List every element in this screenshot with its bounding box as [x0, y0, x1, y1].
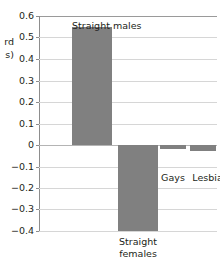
axis-tick	[36, 188, 39, 189]
bar-straight-females	[118, 145, 158, 231]
y-tick-label: −0.3	[11, 204, 34, 214]
y-tick-label: −0.4	[11, 226, 34, 236]
plot-top-border	[39, 16, 217, 17]
axis-tick	[36, 124, 39, 125]
y-tick-label: 0.4	[19, 54, 34, 64]
y-tick-label: 0.6	[19, 11, 34, 21]
axis-tick	[36, 37, 39, 38]
bar-lesbians	[190, 145, 216, 151]
axis-tick	[36, 81, 39, 82]
axis-tick	[36, 231, 39, 232]
bar-annotation-straight-females: Straight females	[98, 236, 178, 259]
bar-straight-males	[72, 27, 112, 145]
bar-annotation-straight-males: Straight males	[72, 20, 192, 32]
gridline	[39, 124, 217, 125]
plot-area: Straight malesStraight femalesGaysLesbia…	[39, 16, 217, 231]
bar-annotation-lesbians: Lesbians	[185, 172, 220, 184]
bar-chart: rd s) 0.60.50.40.30.20.10−0.1−0.2−0.3−0.…	[0, 0, 220, 269]
axis-tick	[36, 209, 39, 210]
y-axis-tick-labels: 0.60.50.40.30.20.10−0.1−0.2−0.3−0.4	[0, 0, 38, 269]
gridline	[39, 81, 217, 82]
y-tick-label: −0.2	[11, 183, 34, 193]
y-tick-label: 0.5	[19, 32, 34, 42]
axis-tick	[36, 102, 39, 103]
y-tick-label: 0	[28, 140, 34, 150]
gridline	[39, 59, 217, 60]
gridline	[39, 102, 217, 103]
y-tick-label: 0.1	[19, 119, 34, 129]
y-tick-label: 0.2	[19, 97, 34, 107]
y-tick-label: −0.1	[11, 162, 34, 172]
axis-tick	[36, 145, 39, 146]
gridline	[39, 231, 217, 232]
axis-tick	[36, 167, 39, 168]
bar-gays	[160, 145, 186, 149]
axis-tick	[36, 16, 39, 17]
y-tick-label: 0.3	[19, 76, 34, 86]
axis-tick	[36, 59, 39, 60]
gridline	[39, 37, 217, 38]
